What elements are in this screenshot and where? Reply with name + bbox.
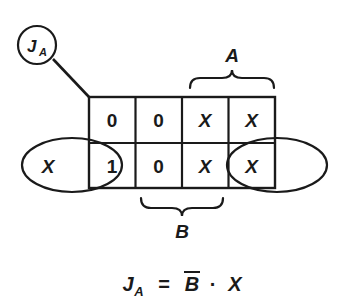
equation-equals: = <box>158 273 170 295</box>
equation-term-2: X <box>227 273 243 295</box>
equation-lhs-main: J <box>122 273 134 295</box>
node-label-main: J <box>27 37 37 56</box>
kmap-diagram-canvas: J A 0 0 X X 1 0 X X X <box>0 0 343 304</box>
kmap-cell-r1c2[interactable]: X <box>198 156 213 177</box>
kmap-cell-r0c0[interactable]: 0 <box>107 110 118 131</box>
right-wrap-group-ellipse <box>227 138 327 192</box>
node-label-sub: A <box>38 46 47 58</box>
kmap-cell-r0c2[interactable]: X <box>198 110 213 131</box>
kmap-cell-r0c1[interactable]: 0 <box>153 110 164 131</box>
kmap-cell-r1c1[interactable]: 0 <box>153 156 164 177</box>
brace-a-label: A <box>224 45 239 66</box>
brace-a-group: A <box>190 45 274 88</box>
brace-b-label: B <box>175 221 189 242</box>
wrap-left-marker-group: X <box>41 156 56 177</box>
brace-b-group: B <box>141 198 223 242</box>
kmap-figure: J A 0 0 X X 1 0 X X X <box>0 0 343 304</box>
kmap-cell-r1c0[interactable]: 1 <box>107 156 118 177</box>
equation-operator: · <box>210 273 217 295</box>
equation-lhs-sub: A <box>133 284 143 299</box>
brace-a-path <box>190 70 274 88</box>
kmap-cell-r1c3[interactable]: X <box>244 156 259 177</box>
brace-b-path <box>141 198 223 216</box>
equation-group: J A = B · X <box>122 272 243 299</box>
groupings-layer <box>22 138 327 192</box>
node-circle-group: J A <box>18 26 56 64</box>
node-leader-line-group <box>53 59 89 97</box>
circle-node-icon <box>18 26 56 64</box>
wrap-left-marker: X <box>41 156 56 177</box>
equation-term-1: B <box>185 273 199 295</box>
node-leader-line <box>53 59 89 97</box>
kmap-cell-r0c3[interactable]: X <box>244 110 259 131</box>
